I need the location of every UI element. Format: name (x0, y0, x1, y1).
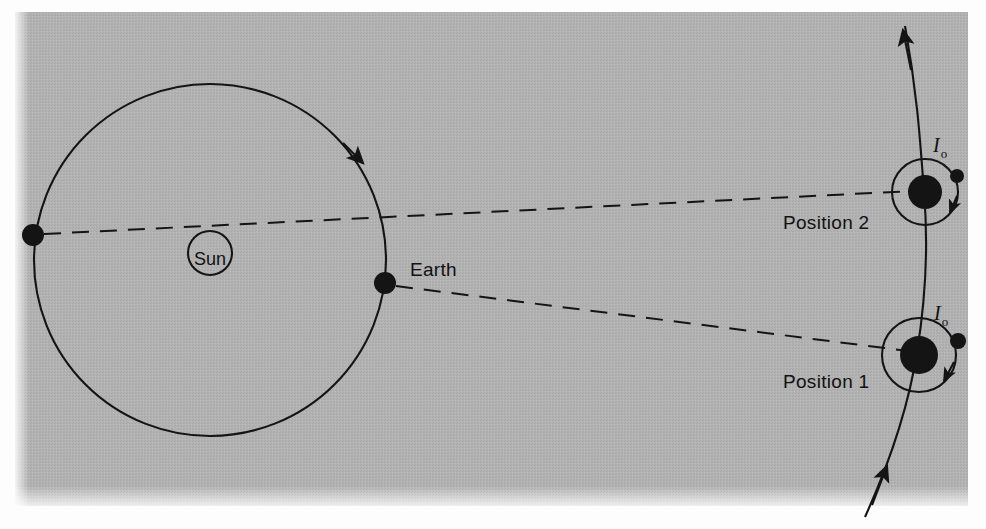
orbital-diagram: Sun Earth Io Position 2 (0, 0, 986, 529)
panel-left-fade (15, 12, 29, 506)
jupiter-body-position-1 (900, 336, 938, 374)
panel-bottom-fade (15, 486, 968, 506)
io-body-position-1 (950, 333, 966, 349)
figure-root: Sun Earth Io Position 2 (0, 0, 986, 529)
earth-label: Earth (410, 259, 457, 280)
earth-body-far (22, 224, 44, 246)
io-label-position-2-sub: o (941, 146, 948, 161)
position-1-label: Position 1 (783, 371, 869, 392)
sun-label: Sun (194, 249, 226, 269)
io-body-position-2 (950, 169, 964, 183)
earth-body-near (374, 272, 396, 294)
position-2-label: Position 2 (783, 212, 869, 233)
jupiter-body-position-2 (908, 175, 942, 209)
io-label-position-1-sub: o (942, 314, 949, 329)
io-label-position-2-main: I (932, 134, 941, 156)
page-background (0, 0, 986, 529)
io-label-position-1-main: I (933, 302, 942, 324)
